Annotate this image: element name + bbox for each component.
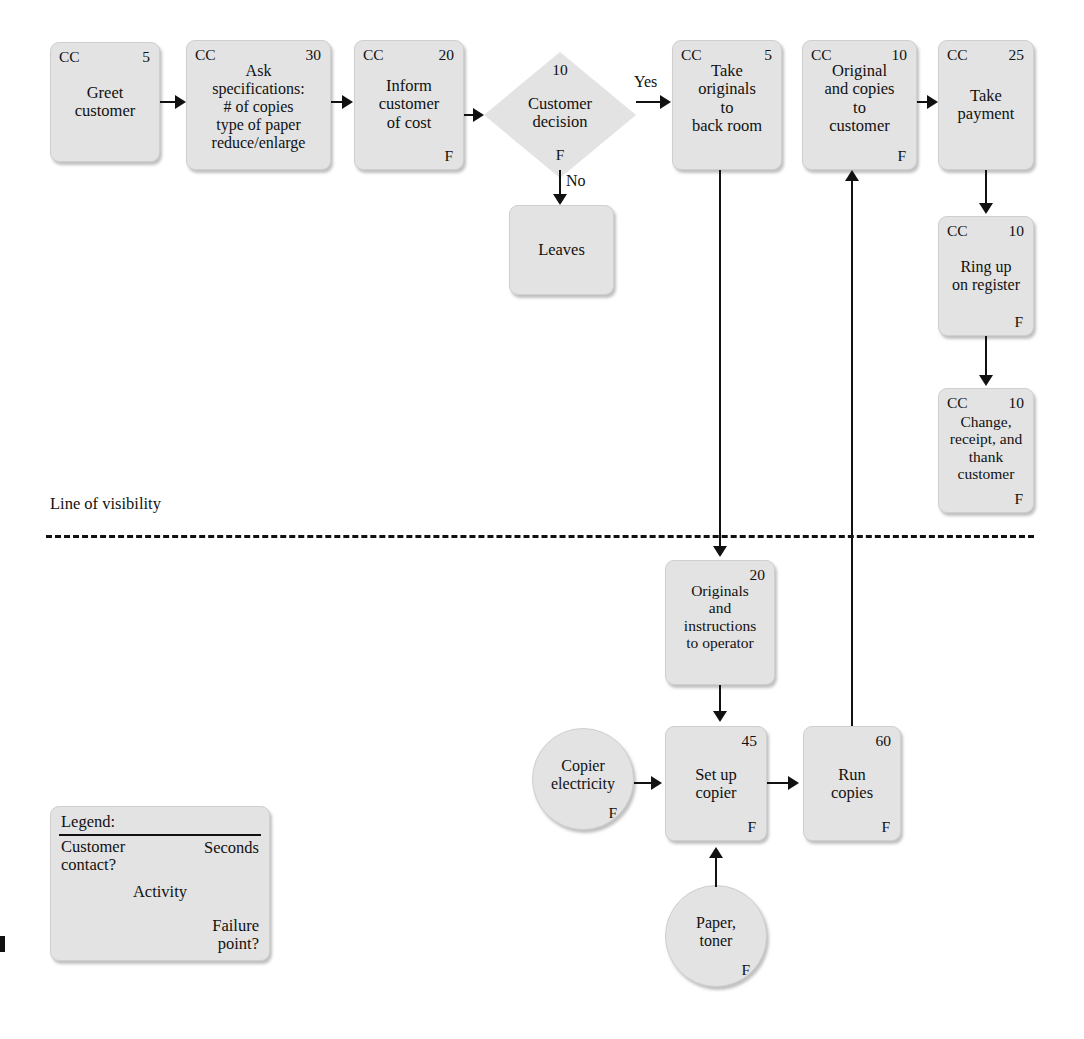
node-failure-label: F [484,146,636,164]
arrowhead-right [473,108,484,122]
node-seconds-label: 10 [1009,223,1025,239]
node-body-text: Leaves [510,241,613,259]
node-body-text: Inform customer of cost [355,77,463,132]
node-seconds-label: 5 [764,47,772,63]
arrowhead-right [651,776,662,790]
arrowhead-right [788,776,799,790]
node-cc-label: CC [947,395,968,411]
node-body-text: Paper, toner [666,914,766,950]
connector-greet-to-ask [160,101,176,103]
edge-label-yes: Yes [634,73,657,91]
connector-papertoner-to-setup [715,854,717,887]
connector-ringup-to-change [985,336,987,376]
node-copier-electricity[interactable]: Copier electricity F [532,728,634,830]
connector-takeoriginals-to-operator [719,170,721,548]
arrowhead-right [660,95,671,109]
node-body-text: Take payment [939,87,1033,124]
node-failure-label: F [608,805,617,821]
node-cc-label: CC [59,49,80,65]
node-take-originals[interactable]: CC 5 Take originals to back room [672,40,782,170]
page-edge-mark [0,936,5,952]
connector-decision-no [559,170,561,197]
arrowhead-right [927,95,938,109]
node-body-text: Run copies [804,765,900,802]
node-cc-label: CC [947,47,968,63]
arrowhead-down [713,546,727,557]
node-failure-label: F [444,148,453,164]
node-originals-instructions-operator[interactable]: 20 Originals and instructions to operato… [665,560,775,685]
node-body-text: Set up copier [666,765,766,802]
connector-payment-to-ringup [985,170,987,205]
node-body-text: Ask specifications: # of copies type of … [187,62,330,152]
node-cc-label: CC [811,47,832,63]
node-ring-up-register[interactable]: CC 10 Ring up on register F [938,216,1034,336]
legend-box: Legend: Customer contact? Seconds Activi… [50,806,270,961]
node-seconds-label: 45 [742,733,758,749]
connector-setup-to-runcopies [767,782,789,784]
node-failure-label: F [881,819,890,835]
line-of-visibility [46,535,1034,538]
node-cc-label: CC [195,47,216,63]
node-seconds-label: 30 [306,47,322,63]
node-cc-label: CC [947,223,968,239]
node-failure-label: F [747,819,756,835]
node-seconds-label: 5 [142,49,150,65]
arrowhead-down [713,711,727,722]
node-customer-decision[interactable]: 10 Customer decision F [484,52,636,178]
node-paper-toner[interactable]: Paper, toner F [665,885,767,987]
legend-customer-contact: Customer contact? [61,838,125,874]
node-failure-label: F [1014,491,1023,507]
legend-title: Legend: [61,812,115,832]
node-seconds-label: 20 [439,47,455,63]
legend-activity: Activity [51,882,269,902]
legend-divider [59,834,261,836]
connector-electricity-to-setup [634,782,652,784]
arrowhead-up [709,847,723,858]
node-seconds-label: 20 [750,567,766,583]
service-blueprint-diagram: CC 5 Greet customer CC 30 Ask specificat… [0,0,1084,1039]
node-failure-label: F [897,148,906,164]
node-body-text: Customer decision [484,95,636,132]
node-body-text: Copier electricity [533,757,633,793]
node-cc-label: CC [681,47,702,63]
line-of-visibility-label: Line of visibility [50,494,161,514]
connector-runcopies-to-origcopies [851,178,853,726]
node-set-up-copier[interactable]: 45 Set up copier F [665,726,767,841]
node-take-payment[interactable]: CC 25 Take payment [938,40,1034,170]
node-body-text: Take originals to back room [673,62,781,136]
node-seconds-label: 10 [1009,395,1025,411]
legend-seconds: Seconds [204,838,259,858]
node-seconds-label: 10 [892,47,908,63]
node-run-copies[interactable]: 60 Run copies F [803,726,901,841]
node-body-text: Greet customer [51,84,159,121]
node-change-receipt-thank[interactable]: CC 10 Change, receipt, and thank custome… [938,388,1034,513]
node-body-text: Change, receipt, and thank customer [939,413,1033,482]
arrowhead-right [175,95,186,109]
node-cc-label: CC [363,47,384,63]
connector-decision-yes [636,101,661,103]
arrowhead-up [845,170,859,181]
node-body-text: Ring up on register [939,258,1033,294]
connector-operator-to-setup [719,685,721,713]
node-body-text: Original and copies to customer [803,62,916,136]
node-body-text: Originals and instructions to operator [666,582,774,651]
node-inform-cost[interactable]: CC 20 Inform customer of cost F [354,40,464,170]
arrowhead-down [553,194,567,205]
node-seconds-label: 25 [1009,47,1025,63]
legend-failure-point: Failure point? [212,917,259,953]
node-failure-label: F [741,962,750,978]
node-originals-copies-to-customer[interactable]: CC 10 Original and copies to customer F [802,40,917,170]
node-seconds-label: 60 [876,733,892,749]
edge-label-no: No [566,172,586,190]
node-ask-specifications[interactable]: CC 30 Ask specifications: # of copies ty… [186,40,331,170]
node-leaves[interactable]: Leaves [509,205,614,295]
arrowhead-right [342,95,353,109]
arrowhead-down [979,375,993,386]
node-failure-label: F [1014,314,1023,330]
node-seconds-label: 10 [484,61,636,79]
node-greet-customer[interactable]: CC 5 Greet customer [50,42,160,162]
arrowhead-down [979,203,993,214]
